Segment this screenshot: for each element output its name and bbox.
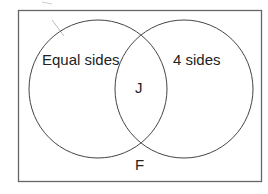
- left-circle: [29, 20, 167, 158]
- left-set-label: Equal sides: [42, 52, 120, 67]
- intersection-label: J: [135, 80, 143, 95]
- universe-label: F: [135, 157, 144, 172]
- scan-mark: [42, 2, 52, 4]
- pointer-stroke: [52, 20, 64, 36]
- venn-diagram: [0, 0, 268, 194]
- right-set-label: 4 sides: [173, 52, 221, 67]
